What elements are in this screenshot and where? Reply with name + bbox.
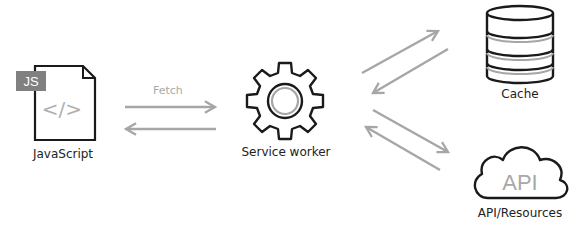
database-icon <box>487 6 553 83</box>
cache-arrows <box>362 31 448 93</box>
service-worker-label: Service worker <box>238 145 334 159</box>
fetch-label: Fetch <box>153 84 183 97</box>
api-arrows <box>366 110 448 170</box>
diagram-canvas: JS </> API <box>0 0 583 230</box>
code-glyph: </> <box>42 97 82 121</box>
svg-text:JS: JS <box>23 74 39 89</box>
cache-label: Cache <box>490 87 550 101</box>
api-resources-label: API/Resources <box>470 206 570 220</box>
fetch-arrows <box>125 107 216 129</box>
api-cloud-text: API <box>502 170 537 195</box>
code-file-icon: JS </> <box>16 66 95 140</box>
gear-icon <box>247 63 323 139</box>
javascript-label: JavaScript <box>28 147 98 161</box>
cloud-icon: API <box>475 147 567 198</box>
